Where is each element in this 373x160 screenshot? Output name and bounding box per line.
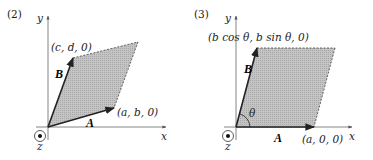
point-a-tip: (a, b, 0) [117, 106, 158, 118]
panel-label: (2) [7, 8, 22, 20]
z-axis-label: z [36, 140, 43, 152]
point-b-tip: (b cos θ, b sin θ, 0) [208, 31, 309, 43]
point-a-tip: (a, 0, 0) [302, 133, 343, 145]
vector-a-label: A [85, 116, 94, 130]
x-axis-label: x [161, 130, 167, 142]
panel-3: (3) y x z θ A B (b cos θ, b sin θ, 0) (a… [194, 8, 355, 152]
point-b-tip: (c, d, 0) [51, 41, 92, 53]
vector-a-label: A [273, 131, 282, 145]
vector-b-label: B [54, 67, 63, 81]
panel-label: (3) [194, 8, 209, 20]
x-axis-label: x [349, 130, 355, 142]
angle-label: θ [249, 107, 256, 119]
y-axis-label: y [224, 12, 232, 24]
vector-b-label: B [243, 62, 252, 76]
panel-2: (2) y x z A B (c, d, 0) (a, b, 0) [7, 8, 167, 152]
y-axis-label: y [36, 12, 44, 24]
z-axis-label: z [224, 140, 231, 152]
diagram-canvas: (2) y x z A B (c, d, 0) (a, b, 0) (3) y … [0, 0, 373, 160]
